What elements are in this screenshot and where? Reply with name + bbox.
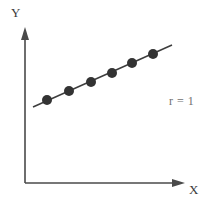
- data-point: [148, 49, 158, 59]
- y-axis: [21, 27, 29, 183]
- x-axis-arrow-icon: [172, 179, 185, 187]
- y-axis-label: Y: [11, 6, 20, 19]
- x-axis-label: X: [189, 183, 198, 196]
- x-axis: [25, 179, 185, 187]
- data-point: [107, 68, 117, 78]
- correlation-annotation: r = 1: [169, 95, 194, 107]
- data-point: [127, 58, 137, 68]
- y-axis-arrow-icon: [21, 27, 29, 40]
- data-point: [86, 77, 96, 87]
- data-point: [64, 86, 74, 96]
- data-point: [42, 95, 52, 105]
